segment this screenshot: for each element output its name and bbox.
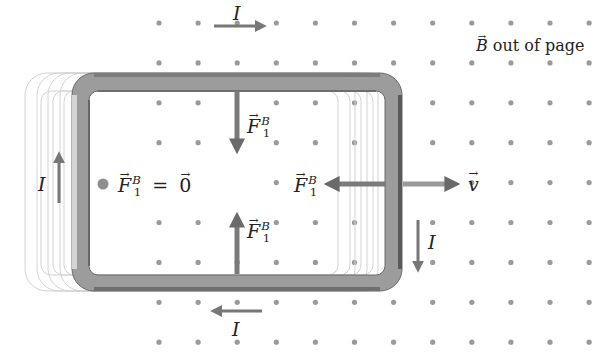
- field-dot: [587, 140, 592, 145]
- field-dot: [430, 60, 435, 65]
- field-dot: [547, 340, 552, 345]
- field-dot: [469, 100, 474, 105]
- field-dot: [274, 260, 279, 265]
- field-dot: [156, 60, 161, 65]
- field-dot: [508, 300, 513, 305]
- field-dot: [469, 300, 474, 305]
- field-dot: [547, 220, 552, 225]
- field-vector-symbol: B: [476, 38, 488, 54]
- field-dot: [313, 60, 318, 65]
- field-dot: [508, 60, 513, 65]
- field-dot: [313, 260, 318, 265]
- field-dot: [391, 20, 396, 25]
- field-dot: [430, 260, 435, 265]
- field-dot: [352, 340, 357, 345]
- field-direction-text: out of page: [493, 36, 585, 55]
- field-dot: [430, 20, 435, 25]
- force-label-top: FB1: [247, 116, 270, 140]
- force-symbol: F: [118, 176, 131, 195]
- field-dot: [196, 100, 201, 105]
- force-label-left-zero: FB1 = 0: [118, 175, 191, 199]
- field-dot: [274, 60, 279, 65]
- field-dot: [156, 220, 161, 225]
- field-dot: [196, 220, 201, 225]
- field-dot: [587, 180, 592, 185]
- field-dot: [156, 340, 161, 345]
- field-dot: [508, 180, 513, 185]
- field-dot: [587, 60, 592, 65]
- field-dot: [391, 300, 396, 305]
- field-dot: [430, 220, 435, 225]
- field-dot: [430, 300, 435, 305]
- field-dot: [274, 180, 279, 185]
- field-dot: [235, 300, 240, 305]
- force-symbol: F: [247, 117, 260, 136]
- field-dot: [156, 20, 161, 25]
- velocity-symbol: v: [468, 175, 479, 194]
- field-dot: [352, 300, 357, 305]
- field-dot: [469, 340, 474, 345]
- field-dot: [469, 20, 474, 25]
- field-dot: [313, 100, 318, 105]
- field-dot: [274, 340, 279, 345]
- field-dot: [274, 220, 279, 225]
- field-dot: [313, 220, 318, 225]
- field-dot: [274, 20, 279, 25]
- field-dot: [274, 140, 279, 145]
- field-dot: [547, 100, 552, 105]
- field-dot: [430, 340, 435, 345]
- field-dot: [313, 340, 318, 345]
- field-dot: [313, 20, 318, 25]
- field-dot: [274, 100, 279, 105]
- field-dot: [508, 140, 513, 145]
- field-dot: [587, 220, 592, 225]
- current-label-right: I: [428, 233, 436, 252]
- field-dot: [508, 260, 513, 265]
- current-label-top: I: [233, 4, 241, 23]
- field-dot: [391, 340, 396, 345]
- force-label-bottom: FB1: [247, 221, 270, 245]
- field-dot: [587, 300, 592, 305]
- field-dot: [156, 300, 161, 305]
- field-dot: [469, 260, 474, 265]
- field-direction-label: B out of page: [476, 38, 584, 54]
- field-dot: [587, 260, 592, 265]
- zero-vector: 0: [179, 176, 191, 195]
- field-dot: [274, 300, 279, 305]
- field-dot: [156, 140, 161, 145]
- field-dot: [196, 340, 201, 345]
- field-dot: [235, 340, 240, 345]
- force-symbol: F: [247, 222, 260, 241]
- field-dot: [313, 140, 318, 145]
- field-dot: [196, 260, 201, 265]
- field-dot: [235, 60, 240, 65]
- field-dot: [156, 260, 161, 265]
- field-dot: [196, 300, 201, 305]
- field-dot: [508, 100, 513, 105]
- field-dot: [196, 60, 201, 65]
- field-dot: [196, 140, 201, 145]
- field-dot: [352, 20, 357, 25]
- field-dot: [469, 220, 474, 225]
- field-dot: [196, 20, 201, 25]
- field-dot: [547, 60, 552, 65]
- field-dot: [469, 60, 474, 65]
- force-symbol: F: [294, 176, 307, 195]
- force-label-right: FB1: [294, 175, 317, 199]
- field-dot: [508, 220, 513, 225]
- field-dot: [430, 140, 435, 145]
- field-dot: [430, 100, 435, 105]
- field-dot: [352, 60, 357, 65]
- field-dot: [508, 340, 513, 345]
- field-dot: [547, 300, 552, 305]
- zero-force-point: [98, 179, 109, 190]
- force-subscript: 1: [263, 231, 271, 245]
- current-label-bottom: I: [232, 320, 240, 339]
- force-subscript: 1: [310, 185, 318, 199]
- field-dot: [547, 180, 552, 185]
- field-dot: [547, 20, 552, 25]
- field-dot: [156, 100, 161, 105]
- field-dot: [587, 20, 592, 25]
- moving-loop-in-magnetic-field-diagram: B out of page I I I I FB1 FB1 FB1 FB1 = …: [0, 0, 609, 363]
- force-subscript: 1: [134, 185, 142, 199]
